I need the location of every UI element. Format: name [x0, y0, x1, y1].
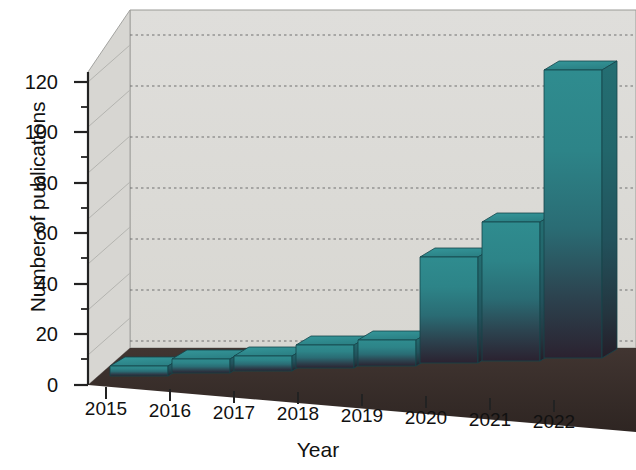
y-tick-label-0: 0: [0, 374, 58, 397]
left-wall: [88, 10, 130, 385]
x-tick-label-2019: 2019: [327, 405, 397, 427]
y-axis-title: Number of publications: [26, 77, 50, 337]
x-tick-label-2017: 2017: [199, 402, 269, 424]
bar-2022: [544, 61, 617, 358]
x-axis-title: Year: [0, 438, 636, 462]
x-tick-label-2021: 2021: [455, 409, 525, 431]
bar-chart: 0 20 40 60 80 100 120 2015 2016 2017 201…: [0, 0, 636, 470]
x-tick-label-2016: 2016: [135, 400, 205, 422]
x-tick-label-2020: 2020: [391, 407, 461, 429]
y-axis-major-ticks: [74, 82, 88, 385]
x-tick-label-2015: 2015: [71, 398, 141, 420]
x-tick-label-2022: 2022: [519, 411, 589, 433]
x-tick-label-2018: 2018: [263, 403, 333, 425]
